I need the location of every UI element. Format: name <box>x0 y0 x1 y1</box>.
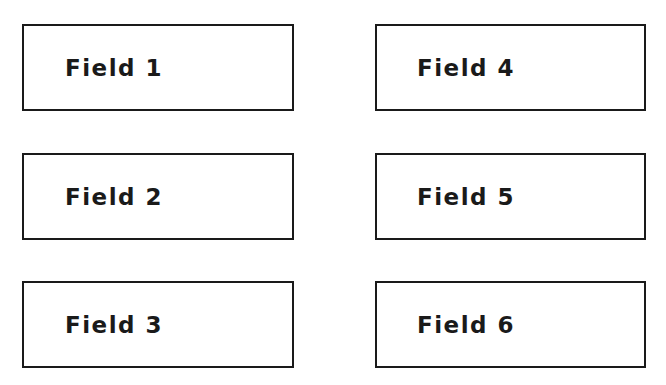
field-5[interactable]: Field 5 <box>375 153 646 240</box>
field-4-label: Field 4 <box>417 55 515 81</box>
field-4[interactable]: Field 4 <box>375 24 646 111</box>
field-2[interactable]: Field 2 <box>22 153 294 240</box>
field-2-label: Field 2 <box>65 184 163 210</box>
field-5-label: Field 5 <box>417 184 515 210</box>
field-1[interactable]: Field 1 <box>22 24 294 111</box>
field-1-label: Field 1 <box>65 55 163 81</box>
field-6[interactable]: Field 6 <box>375 281 646 368</box>
field-3-label: Field 3 <box>65 312 163 338</box>
field-3[interactable]: Field 3 <box>22 281 294 368</box>
field-6-label: Field 6 <box>417 312 515 338</box>
